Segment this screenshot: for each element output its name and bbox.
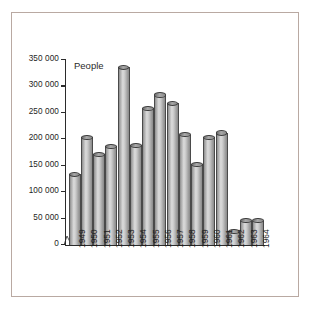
- x-tick-label-1953: 1953: [126, 229, 136, 248]
- x-tick-label-1959: 1959: [200, 229, 210, 248]
- y-tick-label: 150 000: [29, 160, 59, 169]
- bar-1956: [154, 95, 164, 245]
- x-tick-label-1961: 1961: [224, 229, 234, 248]
- bar-1957: [167, 103, 177, 244]
- bar-cap: [69, 172, 81, 177]
- bar-cap: [203, 135, 215, 140]
- y-tick-label: 50 000: [33, 213, 59, 222]
- bar-cap: [191, 162, 203, 167]
- y-tick-label: 300 000: [29, 80, 59, 89]
- x-tick-label-1963: 1963: [249, 229, 259, 248]
- x-tick-label-1964: 1964: [261, 229, 271, 248]
- bar-cap: [216, 130, 228, 135]
- x-tick-label-1960: 1960: [212, 229, 222, 248]
- x-tick-label-1952: 1952: [114, 229, 124, 248]
- bar-cap: [118, 65, 130, 70]
- bar-body: [142, 108, 154, 244]
- x-tick-label-1954: 1954: [138, 229, 148, 248]
- bar-cap: [93, 152, 105, 157]
- x-tick-label-1950: 1950: [89, 229, 99, 248]
- plot-area: 050 000100 000150 000200 000250 000300 0…: [0, 0, 311, 310]
- bar-cap: [179, 132, 191, 137]
- bar-1953: [118, 67, 128, 244]
- chart-screenshot: 050 000100 000150 000200 000250 000300 0…: [0, 0, 311, 310]
- x-tick-label-1956: 1956: [163, 229, 173, 248]
- bar-cap: [130, 143, 142, 148]
- y-tick-label: 200 000: [29, 133, 59, 142]
- bar-1961: [216, 133, 226, 245]
- bar-cap: [81, 135, 93, 140]
- bar-cap: [252, 218, 264, 223]
- bar-body: [154, 95, 166, 245]
- y-tick-label: 350 000: [29, 54, 59, 63]
- bar-cap: [105, 144, 117, 149]
- y-tick-label: 250 000: [29, 107, 59, 116]
- bar-body: [216, 133, 228, 245]
- bar-body: [118, 67, 130, 244]
- x-tick-label-1962: 1962: [236, 229, 246, 248]
- bar-cap: [167, 101, 179, 106]
- bar-1955: [142, 108, 152, 244]
- y-tick-label: 100 000: [29, 186, 59, 195]
- x-tick-label-1951: 1951: [102, 229, 112, 248]
- y-axis-title: People: [74, 60, 104, 71]
- bar-cap: [154, 92, 166, 97]
- y-tick-label: 0: [54, 239, 59, 248]
- x-tick-label-1955: 1955: [151, 229, 161, 248]
- x-tick-label-1949: 1949: [77, 229, 87, 248]
- x-tick-label-1958: 1958: [187, 229, 197, 248]
- bar-cap: [142, 106, 154, 111]
- bar-cap: [240, 218, 252, 223]
- x-tick-label-1957: 1957: [175, 229, 185, 248]
- bar-body: [167, 103, 179, 244]
